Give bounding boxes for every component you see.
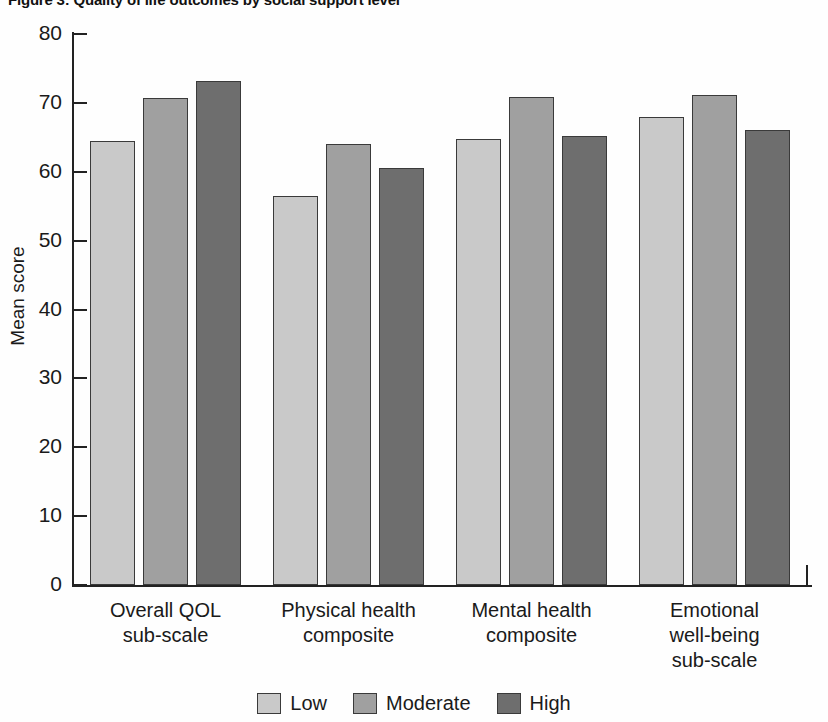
category-label-3: Emotionalwell-beingsub-scale (623, 598, 806, 673)
bar-high-0 (196, 81, 241, 585)
y-tick-10 (74, 515, 87, 517)
category-label-2: Mental healthcomposite (440, 598, 623, 648)
y-axis-title: Mean score (7, 216, 29, 376)
y-tick-80 (74, 33, 87, 35)
bar-low-2 (456, 139, 501, 585)
x-axis-line (72, 585, 812, 587)
category-label-line: Emotional (623, 598, 806, 623)
legend-item-high[interactable]: High (497, 692, 571, 715)
category-label-line: sub-scale (623, 648, 806, 673)
bar-high-3 (745, 130, 790, 585)
y-tick-label-20: 20 (8, 434, 62, 458)
y-tick-60 (74, 171, 87, 173)
y-tick-0 (74, 584, 87, 586)
y-tick-label-0: 0 (8, 572, 62, 596)
legend-swatch-icon-high (497, 693, 521, 714)
bar-chart: 01020304050607080 Mean score Overall QOL… (0, 0, 828, 722)
bar-moderate-0 (143, 98, 188, 585)
y-tick-30 (74, 377, 87, 379)
bar-moderate-2 (509, 97, 554, 585)
category-label-1: Physical healthcomposite (257, 598, 440, 648)
legend-item-moderate[interactable]: Moderate (353, 692, 471, 715)
category-label-line: Overall QOL (74, 598, 257, 623)
y-tick-label-80: 80 (8, 21, 62, 45)
legend-item-low[interactable]: Low (257, 692, 327, 715)
y-tick-label-70: 70 (8, 90, 62, 114)
bar-moderate-3 (692, 95, 737, 585)
legend-label: High (530, 692, 571, 715)
category-label-line: composite (257, 623, 440, 648)
bar-high-1 (379, 168, 424, 585)
y-tick-label-60: 60 (8, 159, 62, 183)
legend-label: Low (290, 692, 327, 715)
chart-legend: LowModerateHigh (0, 692, 828, 715)
category-label-0: Overall QOLsub-scale (74, 598, 257, 648)
y-tick-50 (74, 240, 87, 242)
category-label-line: composite (440, 623, 623, 648)
bar-moderate-1 (326, 144, 371, 585)
legend-swatch-icon-low (257, 693, 281, 714)
legend-swatch-icon-moderate (353, 693, 377, 714)
legend-label: Moderate (386, 692, 471, 715)
bar-low-1 (273, 196, 318, 585)
category-label-line: Mental health (440, 598, 623, 623)
category-label-line: Physical health (257, 598, 440, 623)
bar-low-0 (90, 141, 135, 585)
y-tick-40 (74, 309, 87, 311)
y-tick-70 (74, 102, 87, 104)
category-label-line: well-being (623, 623, 806, 648)
category-label-line: sub-scale (74, 623, 257, 648)
bar-low-3 (639, 117, 684, 585)
y-tick-label-10: 10 (8, 503, 62, 527)
bar-high-2 (562, 136, 607, 585)
x-axis-end-cap (806, 565, 808, 587)
y-tick-20 (74, 446, 87, 448)
